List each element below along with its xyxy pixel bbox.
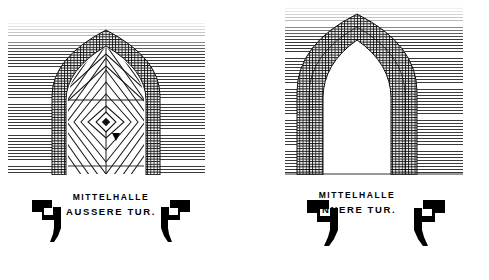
architectural-plate: MITTELHALLE AUSSERE TUR. [0, 0, 489, 280]
figure-innere-tur: MITTELHALLE INNERE TUR. [245, 0, 489, 280]
profile-left-jamb-a [28, 198, 70, 244]
figure-aussere-tur: MITTELHALLE AUSSERE TUR. [0, 0, 245, 280]
door-leaf-left [0, 0, 245, 180]
profile-right-jamb-b [407, 198, 451, 248]
arch-structure-right [245, 0, 489, 180]
profile-left-jamb-b [152, 198, 194, 244]
profile-right-jamb-a [301, 198, 345, 248]
